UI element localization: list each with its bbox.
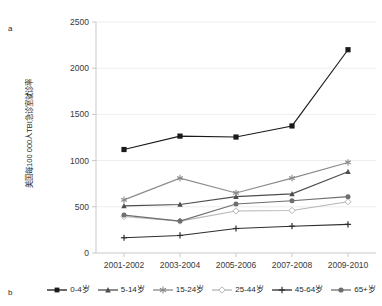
line-chart: 05001000150020002500 2001-20022003-20042… [0, 0, 382, 306]
y-axis-tick-labels: 05001000150020002500 [70, 17, 89, 258]
plus-marker [233, 225, 239, 231]
square-marker [46, 285, 68, 295]
figure-panel-a: a b 美国每100 000人TBI急诊室就诊率 050010001500200… [0, 0, 382, 306]
square-marker [55, 288, 60, 293]
circle-marker [330, 285, 352, 295]
circle-marker [290, 198, 295, 203]
circle-marker [346, 194, 351, 199]
square-marker [345, 47, 350, 52]
legend-item[interactable]: 25-44岁 [211, 285, 263, 295]
square-marker [177, 134, 182, 139]
y-tick-label: 1500 [70, 109, 89, 119]
y-tick-label: 0 [84, 248, 89, 258]
legend-item[interactable]: 65+岁 [330, 285, 376, 295]
plus-marker [289, 223, 295, 229]
square-marker [289, 123, 294, 128]
diamond-marker [289, 207, 295, 213]
circle-marker [339, 287, 344, 292]
legend-item[interactable]: 0-4岁 [46, 285, 90, 295]
chart-legend: 0-4岁5-14岁15-24岁25-44岁45-64岁65+岁 [44, 283, 378, 297]
diamond-marker [219, 287, 225, 293]
diamond-marker [211, 285, 233, 295]
asterisk-marker [152, 285, 174, 295]
x-tick-label: 2007-2008 [272, 260, 313, 270]
plus-marker [279, 287, 285, 293]
data-series [121, 221, 351, 241]
data-series-group [121, 47, 351, 241]
diamond-marker [233, 208, 239, 214]
legend-item-label: 0-4岁 [70, 285, 90, 295]
circle-marker [178, 219, 183, 224]
legend-item[interactable]: 5-14岁 [97, 285, 145, 295]
y-tick-label: 500 [75, 202, 89, 212]
diamond-marker [345, 199, 351, 205]
y-tick-label: 2000 [70, 63, 89, 73]
series-line [124, 172, 348, 206]
asterisk-marker [121, 197, 127, 204]
plus-marker [177, 232, 183, 238]
legend-item[interactable]: 15-24岁 [152, 285, 204, 295]
square-marker [121, 147, 126, 152]
legend-item-label: 15-24岁 [176, 285, 204, 295]
chart-plot-area: 05001000150020002500 2001-20022003-20042… [0, 0, 382, 306]
x-tick-label: 2001-2002 [104, 260, 145, 270]
x-axis-tick-labels: 2001-20022003-20042005-20062007-20082009… [104, 260, 369, 270]
x-tick-label: 2003-2004 [160, 260, 201, 270]
data-series [121, 47, 350, 152]
triangle-marker [345, 169, 350, 174]
legend-item[interactable]: 45-64岁 [271, 285, 323, 295]
legend-item-label: 25-44岁 [235, 285, 263, 295]
plus-marker [271, 285, 293, 295]
square-marker [233, 134, 238, 139]
y-tick-label: 1000 [70, 156, 89, 166]
circle-marker [234, 202, 239, 207]
x-tick-label: 2005-2006 [216, 260, 257, 270]
triangle-marker [97, 285, 119, 295]
plus-marker [345, 221, 351, 227]
plus-marker [121, 235, 127, 241]
legend-item-label: 5-14岁 [121, 285, 145, 295]
legend-item-label: 65+岁 [354, 285, 376, 295]
x-tick-label: 2009-2010 [328, 260, 369, 270]
legend-item-label: 45-64岁 [295, 285, 323, 295]
circle-marker [122, 213, 127, 218]
y-tick-label: 2500 [70, 17, 89, 27]
